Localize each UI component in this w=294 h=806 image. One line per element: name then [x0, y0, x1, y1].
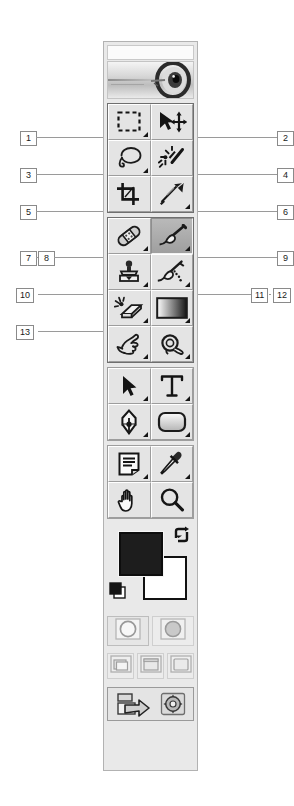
crop-tool[interactable] [108, 176, 151, 212]
crop-icon [116, 182, 142, 206]
foreground-color-swatch[interactable] [119, 532, 163, 576]
callout-number-6: 6 [277, 205, 294, 220]
notes-tool[interactable] [108, 446, 151, 482]
flyout-triangle-icon[interactable] [143, 474, 148, 479]
flyout-triangle-icon[interactable] [185, 318, 190, 323]
standard-mode-button[interactable] [107, 616, 149, 646]
flyout-triangle-icon[interactable] [143, 282, 148, 287]
history-brush-icon [157, 260, 187, 284]
dodge-icon [158, 332, 186, 356]
blur-tool[interactable] [108, 326, 151, 362]
flyout-triangle-icon[interactable] [185, 246, 190, 251]
healing-brush-tool[interactable] [108, 218, 151, 254]
screen-mode-row [107, 653, 194, 679]
move-tool[interactable] [151, 104, 194, 140]
rectangular-marquee-icon [116, 110, 142, 134]
tool-group-selection-tools [107, 103, 194, 213]
flyout-triangle-icon[interactable] [185, 474, 190, 479]
eyedropper-tool[interactable] [151, 446, 194, 482]
paintbrush-tool[interactable] [151, 218, 194, 254]
callout-number-10: 10 [16, 288, 34, 303]
photoshop-toolbox-panel [103, 41, 198, 771]
magic-wand-tool[interactable] [151, 140, 194, 176]
callout-number-7: 7 [20, 251, 37, 266]
callout-leader-11 [198, 294, 251, 295]
slice-icon [158, 182, 186, 206]
blur-icon [115, 332, 143, 356]
flyout-triangle-icon[interactable] [143, 432, 148, 437]
toolbox-banner[interactable] [107, 61, 194, 99]
path-selection-tool[interactable] [108, 368, 151, 404]
color-swatches [107, 526, 194, 608]
jump-to-imageready-icon [116, 691, 156, 717]
standard-mode-icon [115, 618, 141, 644]
tool-group-utility-tools [107, 445, 194, 519]
flyout-triangle-icon[interactable] [185, 354, 190, 359]
swap-colors-icon[interactable] [173, 526, 191, 548]
history-brush-tool[interactable] [151, 254, 194, 290]
callout-number-8: 8 [38, 251, 55, 266]
rectangle-shape-tool[interactable] [151, 404, 194, 440]
callout-leader-1 [36, 137, 103, 138]
flyout-triangle-icon[interactable] [185, 432, 190, 437]
shape-icon [157, 410, 187, 434]
callout-leader-13 [38, 331, 103, 332]
jump-to-imageready-button[interactable] [107, 687, 194, 721]
gradient-tool[interactable] [151, 290, 194, 326]
eyedropper-icon [159, 451, 185, 477]
flyout-triangle-icon[interactable] [185, 282, 190, 287]
callout-leader-10 [38, 294, 103, 295]
callout-number-3: 3 [20, 168, 37, 183]
full-screen-mode-button[interactable] [167, 653, 194, 679]
healing-brush-icon [114, 224, 144, 248]
hand-tool[interactable] [108, 482, 151, 518]
zoom-icon [159, 487, 185, 513]
callout-leader-5 [36, 211, 103, 212]
tool-group-vector-type-tools [107, 367, 194, 441]
callout-number-12: 12 [273, 288, 291, 303]
callout-leader-4 [198, 174, 277, 175]
callout-leader-2 [198, 137, 277, 138]
banner-horizon-line-2 [111, 84, 143, 85]
flyout-triangle-icon[interactable] [143, 318, 148, 323]
callout-leader-3 [36, 174, 103, 175]
standard-screen-icon [110, 655, 132, 677]
eraser-tool[interactable] [108, 290, 151, 326]
paintbrush-icon [157, 224, 187, 248]
callout-number-9: 9 [277, 251, 294, 266]
zoom-tool[interactable] [151, 482, 194, 518]
eraser-icon [114, 296, 144, 320]
clone-stamp-tool[interactable] [108, 254, 151, 290]
toolbox-title-bar[interactable] [107, 45, 194, 60]
gradient-icon [156, 297, 188, 319]
callout-leader-6 [198, 211, 277, 212]
standard-screen-mode-button[interactable] [107, 653, 134, 679]
pen-tool[interactable] [108, 404, 151, 440]
quick-mask-mode-button[interactable] [152, 616, 194, 646]
full-screen-menubar-mode-button[interactable] [137, 653, 164, 679]
tool-group-retouch-paint-tools [107, 217, 194, 363]
flyout-triangle-icon[interactable] [143, 396, 148, 401]
flyout-triangle-icon[interactable] [185, 396, 190, 401]
callout-number-4: 4 [277, 168, 294, 183]
flyout-triangle-icon[interactable] [143, 132, 148, 137]
callout-number-11: 11 [251, 288, 268, 303]
quick-mask-mode-row [107, 616, 194, 646]
pen-icon [117, 409, 141, 435]
full-screen-menubar-icon [140, 655, 162, 677]
default-colors-icon[interactable] [109, 582, 127, 604]
magic-wand-icon [158, 146, 186, 170]
rectangular-marquee-tool[interactable] [108, 104, 151, 140]
dodge-tool[interactable] [151, 326, 194, 362]
slice-tool[interactable] [151, 176, 194, 212]
flyout-triangle-icon[interactable] [143, 354, 148, 359]
clone-stamp-icon [116, 260, 142, 284]
type-icon [160, 373, 184, 399]
flyout-triangle-icon[interactable] [185, 204, 190, 209]
flyout-triangle-icon[interactable] [143, 168, 148, 173]
lasso-tool[interactable] [108, 140, 151, 176]
flyout-triangle-icon[interactable] [143, 246, 148, 251]
full-screen-icon [170, 655, 192, 677]
type-tool[interactable] [151, 368, 194, 404]
hand-icon [116, 487, 142, 513]
